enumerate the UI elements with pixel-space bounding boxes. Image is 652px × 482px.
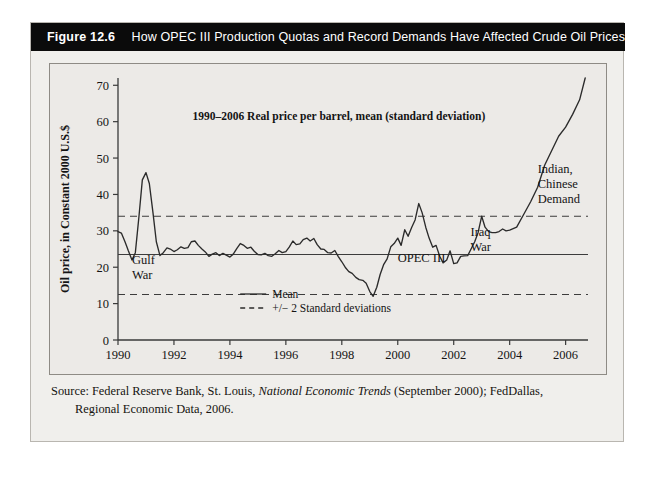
chart-plot-area: 0102030405060701990199219941996199820002… [50,64,606,374]
x-tick-label-1994: 1994 [217,348,243,362]
figure-card: Figure 12.6 How OPEC III Production Quot… [30,22,624,442]
y-tick-label-30: 30 [97,224,110,238]
annotation-line: Iraq [471,225,492,239]
annotation-line: OPEC III [398,251,446,265]
y-tick-label-40: 40 [97,188,110,202]
chart-inner-title: 1990–2006 Real price per barrel, mean (s… [192,110,485,123]
y-axis-title: Oil price, in Constant 2000 U.S.$ [58,125,72,293]
y-tick-label-0: 0 [103,334,109,348]
chart-panel: 0102030405060701990199219941996199820002… [49,63,607,375]
legend-label: +/− 2 Standard deviations [272,302,391,314]
annotation-iraq-war: IraqWar [471,225,492,254]
y-tick-label-60: 60 [97,115,110,129]
annotation-line: Demand [538,192,581,206]
annotation-line: Gulf [132,253,156,267]
y-tick-label-70: 70 [97,79,110,93]
y-tick-label-20: 20 [97,261,110,275]
x-tick-label-2002: 2002 [441,348,466,362]
x-tick-label-1998: 1998 [329,348,354,362]
annotation-line: Chinese [538,177,579,191]
figure-header-bar: Figure 12.6 How OPEC III Production Quot… [31,23,625,51]
annotation-line: Indian, [538,162,573,176]
y-tick-label-10: 10 [97,297,110,311]
legend-label: Mean [272,288,298,300]
source-note: Source: Federal Reserve Bank, St. Louis,… [51,383,607,418]
source-suffix: (September 2000); FedDallas, [391,384,543,398]
source-line-1: Source: Federal Reserve Bank, St. Louis,… [51,383,607,401]
x-tick-label-2000: 2000 [385,348,410,362]
source-publication-title: National Economic Trends [259,384,391,398]
figure-number: Figure 12.6 [31,30,132,44]
source-prefix: Source: Federal Reserve Bank, St. Louis, [51,384,259,398]
x-tick-label-1996: 1996 [273,348,298,362]
x-tick-label-1992: 1992 [161,348,186,362]
chart-legend: Mean+/− 2 Standard deviations [240,288,391,314]
annotation-opec-iii: OPEC III [398,251,446,265]
figure-caption: How OPEC III Production Quotas and Recor… [132,30,625,44]
screenshot-root: Figure 12.6 How OPEC III Production Quot… [0,0,652,482]
x-tick-label-2006: 2006 [553,348,578,362]
annotation-line: War [132,268,153,282]
annotation-indian-chinese-demand: Indian,ChineseDemand [538,162,581,206]
line-chart: 0102030405060701990199219941996199820002… [50,64,606,374]
x-tick-label-2004: 2004 [497,348,523,362]
annotation-line: War [471,240,492,254]
annotation-gulf-war: GulfWar [132,253,156,282]
y-tick-label-50: 50 [97,152,110,166]
x-tick-label-1990: 1990 [106,348,131,362]
source-line-2: Regional Economic Data, 2006. [51,401,607,419]
